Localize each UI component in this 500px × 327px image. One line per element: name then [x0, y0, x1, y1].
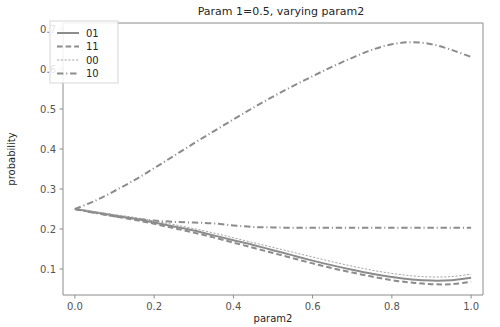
- x-axis-label: param2: [254, 313, 293, 324]
- x-tick-label: 0.6: [305, 301, 321, 312]
- y-tick-label: 0.4: [40, 144, 56, 155]
- legend-label-11: 11: [86, 41, 99, 52]
- line-chart: Param 1=0.5, varying param2 0.00.20.40.6…: [0, 0, 500, 327]
- y-tick-label: 0.1: [40, 264, 56, 275]
- y-axis-label: probability: [6, 132, 17, 185]
- legend-label-01: 01: [86, 28, 99, 39]
- chart-legend: 01110010: [50, 21, 118, 83]
- chart-figure: Param 1=0.5, varying param2 0.00.20.40.6…: [0, 0, 500, 327]
- x-tick-label: 0.4: [225, 301, 241, 312]
- x-tick-label: 0.2: [146, 301, 162, 312]
- legend-label-00: 00: [86, 55, 99, 66]
- y-tick-label: 0.3: [40, 184, 56, 195]
- x-tick-label: 0.0: [67, 301, 83, 312]
- legend-label-10: 10: [86, 68, 99, 79]
- y-tick-label: 0.2: [40, 224, 56, 235]
- x-tick-label: 0.8: [384, 301, 400, 312]
- y-tick-label: 0.5: [40, 104, 56, 115]
- chart-title: Param 1=0.5, varying param2: [198, 5, 365, 18]
- x-tick-label: 1.0: [463, 301, 479, 312]
